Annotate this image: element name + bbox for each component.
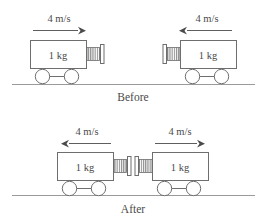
after-right-speed-label: 4 m/s [168, 126, 191, 137]
panel-before: 4 m/s 1 kg 4 m/s [12, 13, 255, 103]
panel-label-before: Before [117, 91, 148, 103]
panel-after: 4 m/s 1 kg 4 m/s [12, 126, 255, 215]
arrow-right-icon [33, 27, 86, 35]
before-right-speed-label: 4 m/s [195, 13, 218, 24]
after-left-mass-label: 1 kg [76, 162, 95, 173]
physics-diagram: 4 m/s 1 kg 4 m/s [0, 0, 267, 224]
before-left-mass-label: 1 kg [49, 50, 68, 61]
before-right-cart: 4 m/s 1 kg [163, 13, 237, 84]
after-right-mass-label: 1 kg [171, 162, 190, 173]
before-right-mass-label: 1 kg [199, 50, 218, 61]
wheel-icon [62, 181, 76, 195]
spring-icon [87, 45, 104, 64]
arrow-right-icon [155, 140, 205, 148]
spring-icon [114, 157, 131, 176]
wheel-icon [91, 181, 105, 195]
panel-label-after: After [121, 203, 145, 215]
after-left-cart: 4 m/s 1 kg [58, 126, 132, 196]
wheel-icon [214, 69, 228, 83]
spring-icon [163, 45, 180, 64]
arrow-left-icon [179, 27, 232, 35]
wheel-icon [64, 69, 78, 83]
after-left-speed-label: 4 m/s [75, 126, 98, 137]
wheel-icon [157, 181, 171, 195]
wheel-icon [35, 69, 49, 83]
before-left-cart: 4 m/s 1 kg [31, 13, 105, 84]
wheel-icon [186, 181, 200, 195]
arrow-left-icon [61, 140, 111, 148]
before-left-speed-label: 4 m/s [47, 13, 70, 24]
after-right-cart: 4 m/s 1 kg [135, 126, 209, 196]
spring-icon [135, 157, 152, 176]
wheel-icon [185, 69, 199, 83]
